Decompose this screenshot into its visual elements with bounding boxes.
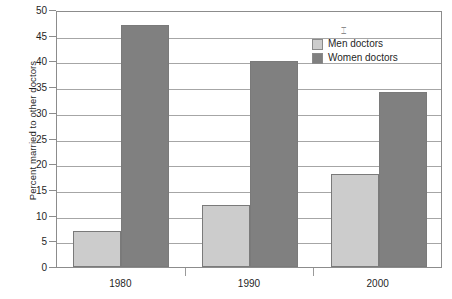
x-tick-label: 2000 bbox=[313, 277, 442, 291]
y-tick-mark bbox=[49, 113, 56, 114]
y-tick-mark bbox=[49, 61, 56, 62]
y-tick-mark bbox=[49, 10, 56, 11]
bar-1980-women bbox=[121, 25, 169, 267]
y-tick-mark bbox=[49, 267, 56, 268]
y-tick-label: 50 bbox=[36, 5, 47, 17]
y-tick: 15 bbox=[0, 185, 56, 197]
y-tick-label: 35 bbox=[36, 82, 47, 94]
y-tick-mark bbox=[49, 190, 56, 191]
bar-2000-men bbox=[331, 174, 379, 267]
legend-item-men: Men doctors bbox=[312, 38, 398, 50]
x-category-separator bbox=[313, 268, 314, 276]
bar-1980-men bbox=[73, 231, 121, 267]
bar-chart: Percent married to other doctors 0510152… bbox=[0, 0, 452, 299]
y-tick: 45 bbox=[0, 31, 56, 43]
y-tick: 5 bbox=[0, 236, 56, 248]
y-tick-label: 25 bbox=[36, 134, 47, 146]
y-tick-mark bbox=[49, 216, 56, 217]
y-tick: 10 bbox=[0, 211, 56, 223]
y-tick-label: 30 bbox=[36, 108, 47, 120]
bar-1990-women bbox=[250, 61, 298, 267]
x-tick-label: 1990 bbox=[185, 277, 314, 291]
y-axis-ticks: 05101520253035404550 bbox=[0, 11, 56, 268]
y-tick-mark bbox=[49, 241, 56, 242]
y-tick: 25 bbox=[0, 134, 56, 146]
legend-label-women: Women doctors bbox=[328, 52, 398, 64]
bar-1990-men bbox=[202, 205, 250, 267]
y-tick-mark bbox=[49, 87, 56, 88]
legend: Men doctors Women doctors bbox=[312, 38, 398, 64]
y-tick-mark bbox=[49, 164, 56, 165]
y-tick: 50 bbox=[0, 5, 56, 17]
x-axis-line bbox=[56, 267, 442, 268]
y-tick-mark bbox=[49, 139, 56, 140]
bar-2000-women bbox=[379, 92, 427, 267]
legend-swatch-women-icon bbox=[312, 53, 323, 64]
y-tick-label: 15 bbox=[36, 185, 47, 197]
y-tick-label: 45 bbox=[36, 31, 47, 43]
y-tick: 40 bbox=[0, 56, 56, 68]
y-tick-label: 10 bbox=[36, 211, 47, 223]
legend-artifact-icon: ⌶ bbox=[341, 26, 345, 36]
y-tick: 0 bbox=[0, 262, 56, 274]
y-tick: 30 bbox=[0, 108, 56, 120]
legend-swatch-men-icon bbox=[312, 39, 323, 50]
y-tick-label: 0 bbox=[41, 262, 47, 274]
x-axis-labels: 198019902000 bbox=[56, 277, 442, 293]
legend-item-women: Women doctors bbox=[312, 52, 398, 64]
y-tick-label: 20 bbox=[36, 159, 47, 171]
y-tick-label: 40 bbox=[36, 56, 47, 68]
y-tick-label: 5 bbox=[41, 236, 47, 248]
y-tick: 20 bbox=[0, 159, 56, 171]
legend-label-men: Men doctors bbox=[328, 38, 383, 50]
y-tick: 35 bbox=[0, 82, 56, 94]
x-category-separator bbox=[185, 268, 186, 276]
y-tick-mark bbox=[49, 36, 56, 37]
x-tick-label: 1980 bbox=[56, 277, 185, 291]
